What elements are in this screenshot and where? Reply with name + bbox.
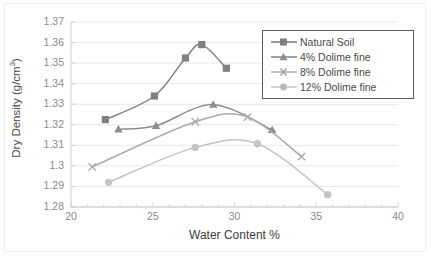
legend: Natural Soil 4% Dolime fine 8% Dolime fi… bbox=[262, 30, 414, 99]
data-point-square bbox=[102, 116, 109, 123]
y-axis-tick-label: 1.35 bbox=[30, 56, 64, 68]
data-point-square bbox=[198, 41, 205, 48]
data-point-square bbox=[182, 54, 189, 61]
x-axis-tick-label: 30 bbox=[220, 210, 250, 222]
legend-item-4-dolime-fine[interactable]: 4% Dolime fine bbox=[263, 49, 413, 64]
series-12-dolime-fine bbox=[105, 140, 331, 199]
legend-marker-triangle-icon bbox=[270, 50, 298, 64]
legend-label: 12% Dolime fine bbox=[298, 81, 376, 93]
y-axis-title-text: Dry Density (g/cm bbox=[10, 66, 22, 157]
x-axis-tick-label: 25 bbox=[138, 210, 168, 222]
data-point-circle bbox=[192, 144, 199, 151]
y-axis-tick-label: 1.37 bbox=[30, 15, 64, 27]
series-line bbox=[92, 114, 301, 167]
legend-item-natural-soil[interactable]: Natural Soil bbox=[263, 34, 413, 49]
x-axis-tick-label: 20 bbox=[56, 210, 86, 222]
legend-marker-square-icon bbox=[270, 35, 298, 49]
data-point-cross bbox=[244, 113, 251, 120]
y-axis-tick-label: 1.29 bbox=[30, 179, 64, 191]
data-point-circle bbox=[324, 191, 331, 198]
y-axis-tick-label: 1.31 bbox=[30, 138, 64, 150]
y-axis-title: Dry Density (g/cm3) bbox=[2, 0, 28, 215]
legend-item-12-dolime-fine[interactable]: 12% Dolime fine bbox=[263, 79, 413, 94]
data-point-cross bbox=[298, 153, 305, 160]
data-point-circle bbox=[254, 140, 261, 147]
series-line bbox=[105, 44, 226, 119]
legend-marker-cross-icon bbox=[270, 65, 298, 79]
x-axis-tick-label: 40 bbox=[383, 210, 413, 222]
legend-marker-circle-icon bbox=[270, 80, 298, 94]
y-axis-tick-label: 1.3 bbox=[30, 159, 64, 171]
y-axis-title-superscript: 3 bbox=[8, 62, 17, 66]
chart-container: Dry Density (g/cm3) Water Content % Natu… bbox=[0, 0, 431, 256]
data-point-cross bbox=[89, 163, 96, 170]
y-axis-tick-label: 1.34 bbox=[30, 77, 64, 89]
x-axis-tick-label: 35 bbox=[301, 210, 331, 222]
y-axis-tick-label: 1.36 bbox=[30, 36, 64, 48]
y-axis-tick-label: 1.32 bbox=[30, 118, 64, 130]
series-natural-soil bbox=[102, 41, 230, 123]
data-point-circle bbox=[105, 179, 112, 186]
legend-label: Natural Soil bbox=[298, 36, 354, 48]
y-axis-title-tail: ) bbox=[10, 58, 22, 62]
data-point-square bbox=[223, 65, 230, 72]
data-point-square bbox=[151, 92, 158, 99]
series-8-dolime-fine bbox=[89, 113, 306, 170]
y-axis-tick-label: 1.33 bbox=[30, 97, 64, 109]
legend-label: 8% Dolime fine bbox=[298, 66, 371, 78]
x-axis-title: Water Content % bbox=[71, 228, 398, 242]
legend-item-8-dolime-fine[interactable]: 8% Dolime fine bbox=[263, 64, 413, 79]
legend-label: 4% Dolime fine bbox=[298, 51, 371, 63]
